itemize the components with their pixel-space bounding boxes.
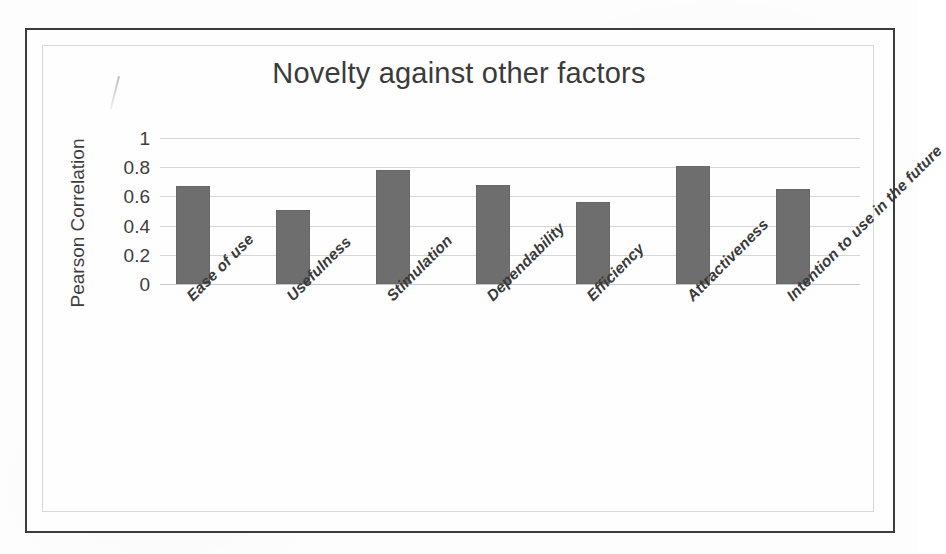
gridline-0.2 (160, 255, 860, 256)
y-axis-tick-label: 0.8 (30, 158, 150, 177)
plot-area: 10.80.60.40.20 (160, 138, 860, 284)
y-axis-tick-label: 1 (30, 129, 150, 148)
gridline-0.6 (160, 196, 860, 197)
bar (376, 170, 410, 284)
y-axis-tick-label: 0.6 (30, 187, 150, 206)
y-axis-tick-label: 0.4 (30, 217, 150, 236)
chart-title: Novelty against other factors (0, 57, 918, 90)
y-axis-tick-label: 0.2 (30, 246, 150, 265)
gridline-0.8 (160, 167, 860, 168)
y-axis-tick-label: 0 (30, 275, 150, 294)
gridline-1 (160, 138, 860, 139)
bar (676, 166, 710, 284)
